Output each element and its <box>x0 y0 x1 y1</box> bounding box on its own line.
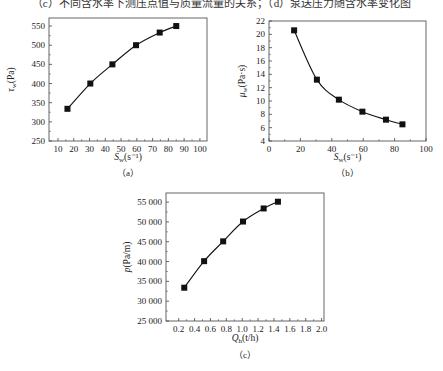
y-tick-label: 400 <box>32 79 46 89</box>
sub-figure-caption: （b） <box>336 168 359 178</box>
chart-a-tau-vs-shear-rate: 1020304050607080901002503003504004505005… <box>6 18 207 178</box>
data-series-line <box>67 26 176 109</box>
chart-c-pressure-vs-flow: 0.20.40.60.81.01.21.41.61.82.025 00030 0… <box>122 193 328 360</box>
x-tick-label: 0.2 <box>173 324 184 334</box>
data-point-marker <box>220 238 226 244</box>
y-tick-label: 350 <box>32 98 46 108</box>
plot-frame <box>49 18 207 141</box>
chart-b-viscosity-vs-shear-rate: 02040608010046810121416182022Sw(s⁻¹)μw(P… <box>237 16 433 178</box>
x-tick-label: 20 <box>69 144 79 154</box>
x-tick-label: 2.0 <box>316 324 328 334</box>
y-tick-label: 40 000 <box>137 257 162 267</box>
y-tick-label: 500 <box>32 40 46 50</box>
data-series-line <box>294 30 402 124</box>
data-point-marker <box>109 61 115 67</box>
x-tick-label: 1.6 <box>284 324 296 334</box>
y-tick-label: 6 <box>261 123 266 133</box>
x-tick-label: 40 <box>101 144 111 154</box>
x-tick-label: 1.4 <box>268 324 280 334</box>
y-tick-label: 50 000 <box>137 217 162 227</box>
y-axis-title: τw(Pa) <box>6 67 18 91</box>
figure-canvas: 1020304050607080901002503003504004505005… <box>0 0 443 371</box>
data-point-marker <box>173 23 179 29</box>
data-point-marker <box>157 30 163 36</box>
data-point-marker <box>201 258 207 264</box>
y-tick-label: 25 000 <box>137 316 162 326</box>
data-point-marker <box>64 106 70 112</box>
y-tick-label: 12 <box>256 83 265 93</box>
data-point-marker <box>314 77 320 83</box>
data-point-marker <box>383 117 389 123</box>
y-tick-label: 30 000 <box>137 296 162 306</box>
sub-figure-caption: （c） <box>234 350 256 360</box>
x-tick-label: 0 <box>267 144 272 154</box>
x-tick-label: 90 <box>180 144 190 154</box>
y-tick-label: 22 <box>256 16 265 26</box>
y-tick-label: 35 000 <box>137 276 162 286</box>
y-axis-title: p(Pa/m) <box>122 242 133 274</box>
x-tick-label: 30 <box>85 144 95 154</box>
data-point-marker <box>181 285 187 291</box>
y-tick-label: 450 <box>32 59 46 69</box>
x-axis-title: Qh(t/h) <box>232 333 259 345</box>
y-tick-label: 4 <box>261 136 266 146</box>
data-point-marker <box>133 42 139 48</box>
y-axis-title: μw(Pa·s) <box>237 65 249 99</box>
x-tick-label: 80 <box>390 144 400 154</box>
x-tick-label: 100 <box>193 144 207 154</box>
y-tick-label: 16 <box>256 56 266 66</box>
y-tick-label: 20 <box>256 29 266 39</box>
y-tick-label: 250 <box>32 136 46 146</box>
data-series-line <box>184 202 278 288</box>
x-tick-label: 0.4 <box>189 324 201 334</box>
x-tick-label: 70 <box>148 144 158 154</box>
data-point-marker <box>291 27 297 33</box>
y-tick-label: 8 <box>261 109 266 119</box>
x-axis-title: Sw(s⁻¹) <box>114 152 142 164</box>
data-point-marker <box>261 205 267 211</box>
x-tick-label: 0.6 <box>205 324 217 334</box>
x-axis-title: Sw(s⁻¹) <box>334 152 362 164</box>
data-point-marker <box>87 81 93 87</box>
y-tick-label: 300 <box>32 117 46 127</box>
x-tick-label: 100 <box>419 144 433 154</box>
x-tick-label: 20 <box>296 144 306 154</box>
x-tick-label: 80 <box>164 144 174 154</box>
y-tick-label: 18 <box>256 43 266 53</box>
data-point-marker <box>359 109 365 115</box>
plot-frame <box>166 193 324 321</box>
x-tick-label: 10 <box>53 144 63 154</box>
y-tick-label: 14 <box>256 69 266 79</box>
y-tick-label: 45 000 <box>137 237 162 247</box>
x-tick-label: 1.8 <box>300 324 312 334</box>
data-point-marker <box>399 121 405 127</box>
y-tick-label: 55 000 <box>137 197 162 207</box>
data-point-marker <box>336 97 342 103</box>
sub-figure-caption: （a） <box>117 168 139 178</box>
y-tick-label: 10 <box>256 96 266 106</box>
data-point-marker <box>275 199 281 205</box>
y-tick-label: 550 <box>32 21 46 31</box>
data-point-marker <box>240 219 246 225</box>
